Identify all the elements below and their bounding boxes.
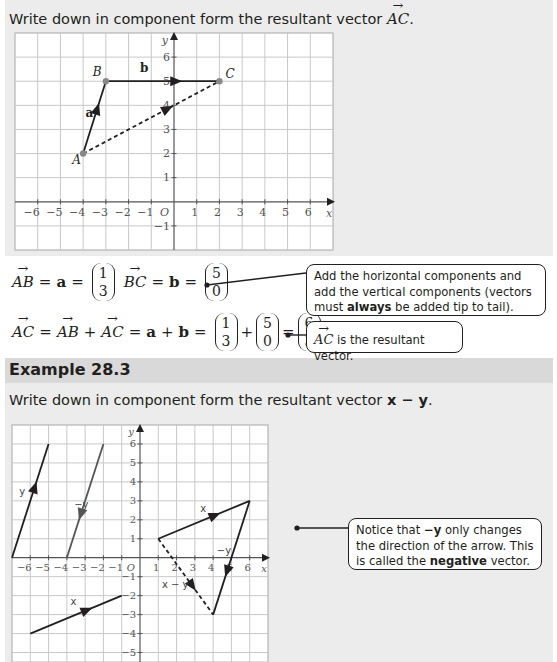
svg-text:−5: −5 [121,647,136,658]
svg-text:x: x [71,596,77,607]
column-vector-a: 13 [215,313,238,351]
callout-negative-vector: Notice that −y only changes the directio… [348,518,542,570]
vector-bc: →BC [124,273,147,291]
example-prompt: Write down in component form the resulta… [9,392,433,408]
svg-text:4: 4 [208,562,214,573]
equation-ab-bc: →AB = a = 13 →BC = b = 50 [12,263,231,301]
vector-ab: →AB [57,323,79,341]
svg-text:1: 1 [130,533,136,544]
svg-text:4: 4 [130,476,136,487]
svg-text:3: 3 [130,495,136,506]
callout-resultant: →AC is the resultant vector. [306,321,463,353]
svg-text:x: x [200,503,206,514]
column-vector-b: 50 [256,313,279,351]
svg-text:x − y: x − y [162,579,189,590]
svg-text:6: 6 [130,438,136,449]
example-title: Example 28.3 [9,360,131,379]
column-vector-b: 50 [205,263,228,301]
svg-text:y: y [19,486,25,497]
svg-text:O: O [127,562,135,573]
equation-ac-sum: →AC = →AB + →AC = a + b = 13 + 50 = 63 [12,313,324,351]
vector-ac-label: →AC [314,332,333,348]
svg-text:−2: −2 [121,590,136,601]
svg-text:2: 2 [130,514,136,525]
svg-text:−4: −4 [121,628,136,639]
svg-text:−5: −5 [35,562,50,573]
svg-text:1: 1 [153,562,159,573]
svg-text:−2: −2 [90,562,105,573]
svg-text:−6: −6 [17,562,32,573]
svg-text:5: 5 [130,457,136,468]
svg-text:x: x [261,563,267,574]
svg-text:3: 3 [190,562,196,573]
svg-text:6: 6 [245,562,251,573]
column-vector-a: 13 [92,263,115,301]
vector-ac: →AC [101,323,123,341]
svg-text:−3: −3 [121,609,136,620]
vector-ac: →AC [12,323,34,341]
svg-text:−y: −y [217,545,231,556]
svg-text:y: y [127,426,134,437]
vector-ab: →AB [12,273,34,291]
svg-text:−y: −y [74,499,88,510]
callout-add-components: Add the horizontal components and add th… [306,264,546,316]
svg-text:−4: −4 [53,562,68,573]
svg-text:−3: −3 [72,562,87,573]
